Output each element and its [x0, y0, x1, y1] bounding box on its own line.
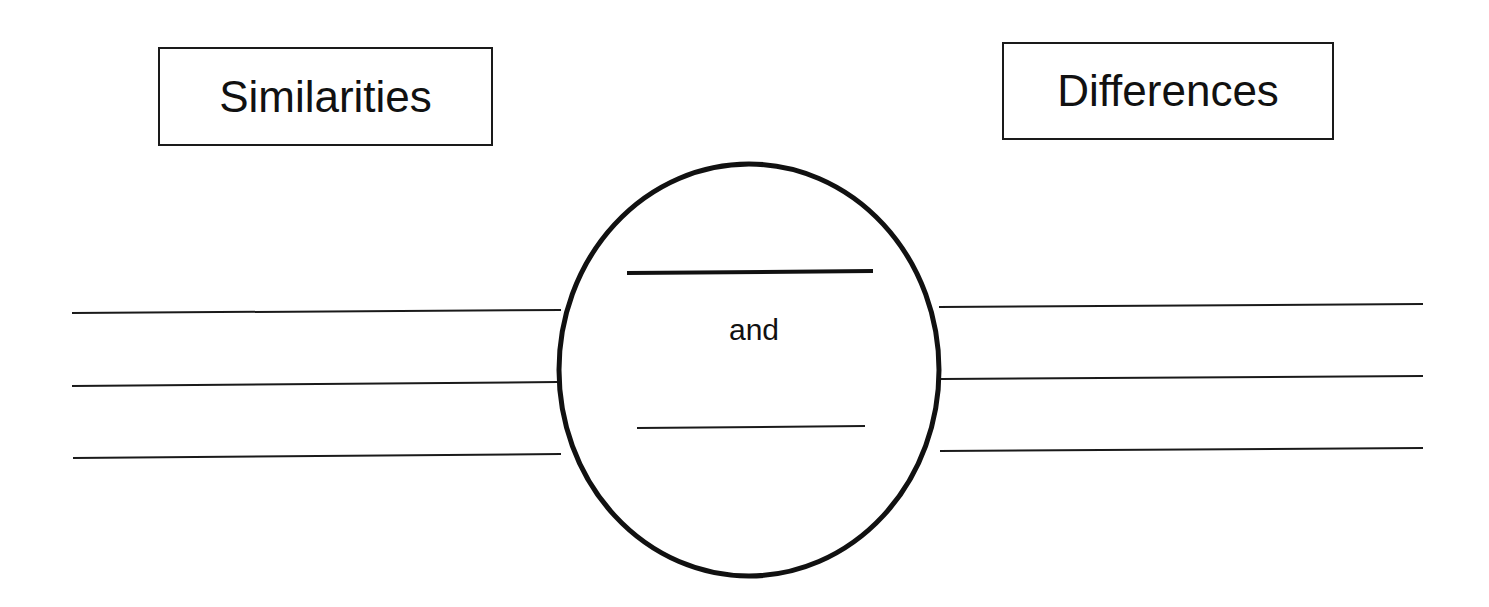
topic-blank-1[interactable]	[627, 271, 873, 273]
similarity-line-3[interactable]	[73, 454, 561, 458]
similarity-line-1[interactable]	[72, 310, 561, 313]
similarity-line-2[interactable]	[72, 382, 558, 386]
difference-line-2[interactable]	[941, 376, 1423, 379]
difference-line-3[interactable]	[940, 448, 1423, 451]
center-circle	[559, 164, 939, 576]
and-connector-text: and	[649, 313, 859, 347]
difference-line-1[interactable]	[939, 304, 1423, 307]
organizer-graphic	[0, 0, 1489, 607]
